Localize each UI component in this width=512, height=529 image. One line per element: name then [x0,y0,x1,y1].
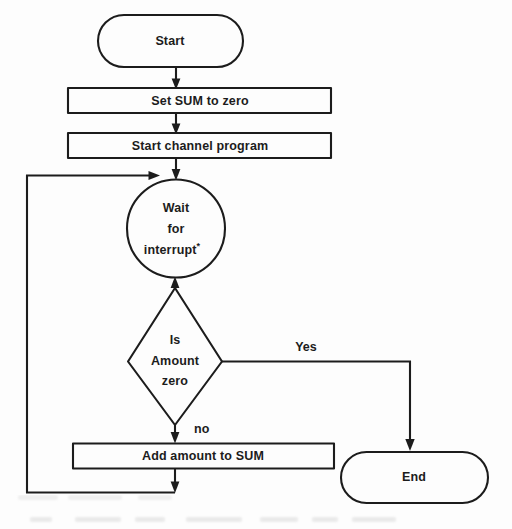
edge-line [222,362,410,445]
edge-set-sum-to-start-channel [172,113,181,135]
node-decision[interactable]: Is Amount zero [128,288,222,425]
node-set-sum[interactable]: Set SUM to zero [68,88,331,113]
add-amount-label: Add amount to SUM [142,449,264,463]
edge-start-channel-to-wait [172,158,181,181]
wait-label-line2: for [167,222,184,236]
start-channel-label: Start channel program [132,139,269,153]
arrowhead-icon [171,482,180,494]
arrowhead-icon [171,432,180,444]
node-end[interactable]: End [341,452,488,503]
decision-label-line2: Amount [151,354,200,368]
footnote-asterisk-icon: * [197,241,201,251]
node-start[interactable]: Start [98,15,243,67]
wait-label-line3: interrupt* [144,241,201,257]
set-sum-label: Set SUM to zero [151,94,249,108]
node-add-amount[interactable]: Add amount to SUM [73,444,334,469]
wait-label-line3-text: interrupt [144,243,197,257]
flowchart-canvas: Start Set SUM to zero Start channel prog… [0,0,512,529]
node-start-channel[interactable]: Start channel program [68,133,331,158]
flowchart-svg: Start Set SUM to zero Start channel prog… [0,0,512,529]
end-label: End [402,470,426,484]
edge-decision-no-to-add-amount [171,425,180,444]
start-label: Start [155,34,185,48]
arrowhead-icon [149,171,161,180]
decision-label-line1: Is [170,333,181,347]
node-wait[interactable]: Wait for interrupt* [127,180,225,278]
wait-label-line1: Wait [163,201,190,215]
edge-label-yes: Yes [295,340,317,354]
edge-decision-yes-to-end [222,362,415,452]
edge-start-to-set-sum [172,67,181,90]
edge-label-no: no [194,422,210,436]
decision-label-line3: zero [162,374,189,388]
arrowhead-icon [405,439,414,451]
